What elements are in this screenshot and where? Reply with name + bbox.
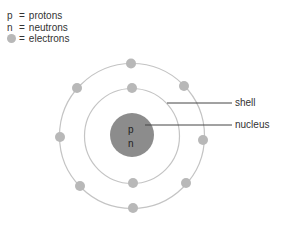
nucleus — [110, 113, 154, 157]
nucleus-p-label: p — [128, 124, 134, 135]
shell-label: shell — [235, 97, 256, 108]
electron-outer-lower-right — [181, 178, 191, 188]
electron-inner-top — [127, 83, 137, 93]
electron-inner-bottom — [128, 178, 138, 188]
electron-outer-lower-left — [75, 181, 85, 191]
atom-diagram — [0, 0, 288, 231]
electron-outer-upper-right — [179, 81, 189, 91]
electron-outer-right — [198, 135, 208, 145]
nucleus-label: nucleus — [235, 119, 269, 130]
electron-outer-upper-left — [72, 83, 82, 93]
nucleus-n-label: n — [128, 138, 134, 149]
electron-outer-top — [126, 59, 136, 69]
electron-outer-bottom — [128, 203, 138, 213]
electron-outer-left — [55, 132, 65, 142]
